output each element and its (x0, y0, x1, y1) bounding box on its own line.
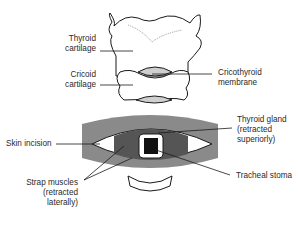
label-skin-incision: Skin incision (6, 139, 52, 149)
label-cricoid-cartilage: Cricoidcartilage (60, 70, 96, 90)
label-thyroid-cartilage: Thyroidcartilage (60, 34, 96, 54)
label-strap-muscles: Strap muscles(retractedlaterally) (20, 178, 78, 208)
label-tracheal-stoma: Tracheal stoma (236, 171, 292, 181)
label-thyroid-gland: Thyroid gland(retractedsuperiorly) (237, 115, 287, 145)
label-cricothyroid-membrane: Cricothyroidmembrane (218, 68, 262, 88)
tracheal-stoma-shape (144, 138, 158, 154)
trachea-lower (128, 176, 172, 191)
